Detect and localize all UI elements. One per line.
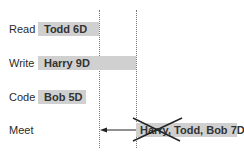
cross-out-x-icon xyxy=(133,118,182,141)
diagram-overlay xyxy=(0,0,244,153)
left-arrow-icon xyxy=(100,128,136,133)
